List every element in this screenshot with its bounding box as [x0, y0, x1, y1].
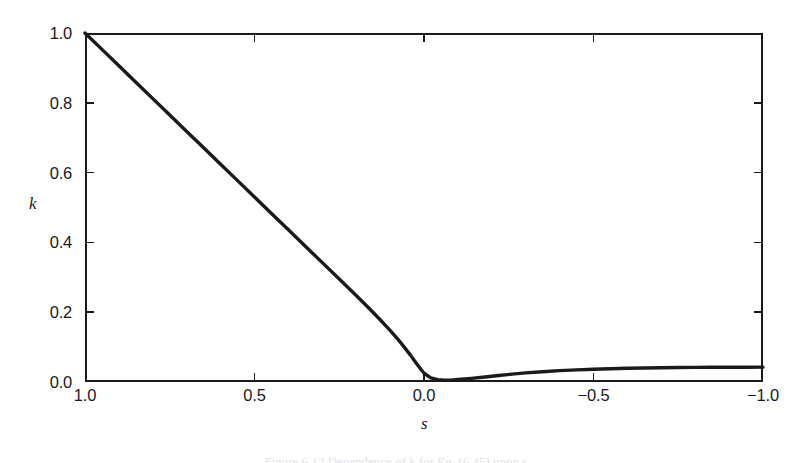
data-series-curve [85, 33, 763, 380]
y-tick-right [754, 102, 763, 104]
x-tick-label: 0.0 [413, 386, 435, 405]
y-tick-label: 0.0 [50, 373, 72, 392]
figure-chart: 1.00.50.0−0.5−1.0 0.00.20.40.60.81.0 k s… [0, 0, 795, 463]
y-tick-label: 1.0 [50, 24, 72, 43]
y-tick-right [754, 172, 763, 174]
y-tick-label: 0.2 [50, 303, 72, 322]
figure-caption: Figure 6.12 Dependence of k for Eq. (6.4… [0, 455, 795, 463]
x-tick-bottom [254, 373, 256, 382]
x-tick-label: 1.0 [74, 386, 96, 405]
x-tick-top [254, 33, 256, 42]
x-tick-label: −1.0 [747, 386, 779, 405]
y-tick-right [754, 242, 763, 244]
x-tick-top [593, 33, 595, 42]
plot-area [85, 33, 763, 382]
x-tick-bottom [423, 373, 425, 382]
x-tick-bottom [593, 373, 595, 382]
x-tick-label: 0.5 [243, 386, 265, 405]
y-tick-left [85, 102, 94, 104]
y-axis-title: k [29, 194, 37, 214]
y-tick-left [85, 311, 94, 313]
x-tick-label: −0.5 [578, 386, 610, 405]
y-tick-label: 0.4 [50, 233, 72, 252]
y-tick-label: 0.8 [50, 93, 72, 112]
y-tick-left [85, 172, 94, 174]
x-tick-top [423, 33, 425, 42]
y-tick-left [85, 242, 94, 244]
y-tick-right [754, 311, 763, 313]
y-tick-label: 0.6 [50, 163, 72, 182]
curve-svg [85, 33, 763, 382]
x-axis-title: s [421, 414, 428, 434]
